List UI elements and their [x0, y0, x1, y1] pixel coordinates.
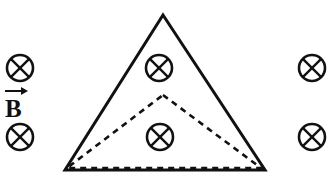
field-marker-left-top — [7, 55, 33, 81]
physics-figure: B — [0, 0, 333, 190]
field-marker-right-bottom — [299, 124, 325, 150]
figure-canvas — [0, 0, 333, 190]
field-marker-inner-bottom — [147, 124, 173, 150]
field-marker-inner-top — [146, 55, 172, 81]
field-marker-right-top — [299, 55, 325, 81]
field-marker-left-bottom — [7, 124, 33, 150]
